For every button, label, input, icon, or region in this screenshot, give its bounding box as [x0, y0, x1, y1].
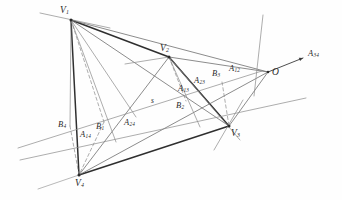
segment-V4-tail-lower-left [38, 175, 79, 189]
vertex-label-v3-text: V [231, 128, 237, 138]
vertex-label-v1: V1 [60, 6, 69, 16]
point-label-a12-subscript: 12 [235, 67, 240, 73]
line-label-s-text: s [151, 96, 154, 105]
geometry-figure: V1V2V3V4OA34A12A13A14A23A24B1B2B3B4s [0, 0, 342, 200]
segment-V2-V4 [79, 57, 169, 175]
point-label-a23-text: A [194, 75, 199, 85]
segment-V1-V3 [71, 20, 229, 126]
point-label-b2-subscript: 2 [182, 104, 185, 110]
point-label-b4-text: B [58, 119, 63, 129]
vertex-label-v3-subscript: 3 [237, 132, 240, 138]
center-dot-o [267, 71, 270, 74]
point-label-a14: A14 [80, 130, 91, 139]
vertex-label-v2: V2 [160, 44, 169, 54]
point-label-b4: B4 [58, 120, 66, 129]
figure-canvas [0, 0, 342, 200]
vertex-label-v4-text: V [75, 178, 81, 188]
segment-line-through-O-steep [254, 15, 263, 96]
point-label-a13: A13 [178, 84, 189, 93]
point-label-a13-text: A [178, 83, 183, 93]
point-label-a23: A23 [194, 76, 205, 85]
solid-lines-group [18, 13, 306, 189]
vertex-label-v2-text: V [160, 43, 166, 53]
center-label-o-text: O [272, 67, 279, 77]
point-label-b3-subscript: 3 [218, 72, 221, 78]
line-label-s: s [151, 97, 154, 105]
point-label-a24-text: A [124, 117, 129, 127]
point-label-b1-subscript: 1 [102, 125, 105, 131]
point-label-a12: A12 [229, 64, 240, 73]
point-label-b1-text: B [96, 121, 101, 131]
axis-label-a34: A34 [308, 49, 319, 58]
segment-B4-V1-ray [70, 20, 71, 126]
center-label-o: O [272, 68, 279, 78]
point-label-b3: B3 [212, 69, 220, 78]
vertex-dot-v2 [168, 56, 171, 59]
segment-V1-V2 [71, 20, 169, 57]
axis-label-a34-subscript: 34 [314, 52, 319, 58]
vertex-label-v4: V4 [75, 179, 84, 189]
segment-V1-B1-ext [71, 20, 116, 142]
segment-V2-B2-dashed [169, 57, 186, 101]
axis-label-a34-text: A [308, 48, 313, 58]
vertex-dot-v1 [70, 19, 73, 22]
segment-V4-O [79, 72, 268, 175]
segment-V3-O [229, 72, 268, 126]
segment-V3-V4 [79, 126, 229, 175]
point-label-b2-text: B [176, 100, 181, 110]
vertex-label-v1-subscript: 1 [66, 9, 69, 15]
point-label-b3-text: B [212, 68, 217, 78]
point-label-a14-text: A [80, 129, 85, 139]
vertex-dot-v4 [78, 174, 81, 177]
point-label-b2: B2 [176, 101, 184, 110]
vertex-label-v1-text: V [60, 5, 66, 15]
segment-line-s [18, 71, 262, 148]
point-label-a14-subscript: 14 [86, 133, 91, 139]
vertex-label-v3: V3 [231, 129, 240, 139]
point-label-b4-subscript: 4 [64, 123, 67, 129]
vertex-label-v2-subscript: 2 [166, 47, 169, 53]
vertex-label-v4-subscript: 4 [81, 182, 84, 188]
point-label-a23-subscript: 23 [200, 79, 205, 85]
point-label-a12-text: A [229, 63, 234, 73]
point-label-b1: B1 [96, 122, 104, 131]
point-label-a24-subscript: 24 [130, 121, 135, 127]
point-label-a24: A24 [124, 118, 135, 127]
point-label-a13-subscript: 13 [184, 87, 189, 93]
